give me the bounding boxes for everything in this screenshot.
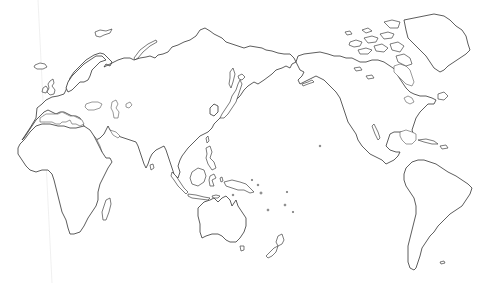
landmass-madagascar — [102, 198, 111, 220]
landmass-sri-lanka — [150, 164, 154, 170]
landmass-greenland — [404, 14, 470, 72]
landmass-iceland — [34, 63, 47, 69]
landmass-south-america — [404, 160, 472, 270]
landmass-lesser-sunda-islands — [212, 195, 220, 198]
landmass-borneo — [190, 168, 206, 186]
landmass-north-america — [296, 52, 436, 164]
landmass-philippines — [206, 146, 216, 170]
landmass-new-guinea — [224, 180, 254, 193]
landmass-sulawesi — [209, 174, 216, 186]
gulf-of-mexico — [400, 130, 416, 144]
pacific-islands — [232, 145, 321, 213]
landmass-hispaniola — [440, 145, 448, 149]
landmass-taiwan — [206, 136, 209, 143]
landmass-new-zealand-north — [276, 234, 284, 246]
landmass-great-britain — [47, 79, 55, 95]
world-map — [0, 0, 501, 283]
landmass-falkland-islands — [440, 261, 445, 264]
landmass-africa — [18, 124, 112, 234]
landmass-cuba — [418, 139, 438, 144]
landmass-tasmania — [240, 246, 244, 251]
landmass-newfoundland — [438, 92, 448, 100]
landmass-australia — [198, 196, 246, 242]
landmass-svalbard — [95, 29, 112, 37]
landmass-moluccas — [220, 177, 223, 182]
landmass-new-zealand-south — [266, 246, 278, 258]
landmass-sumatra — [171, 172, 188, 194]
landmass-java — [188, 194, 210, 200]
